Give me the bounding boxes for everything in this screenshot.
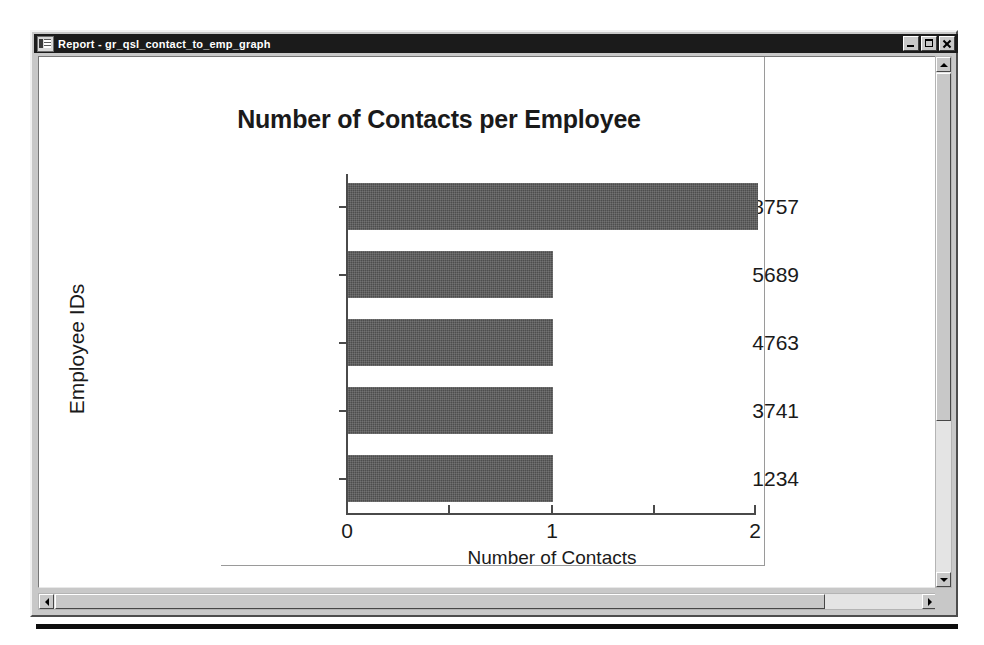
y-axis-label: Employee IDs bbox=[65, 239, 89, 459]
arrow-down-icon bbox=[940, 578, 948, 582]
arrow-left-icon bbox=[45, 598, 49, 606]
window-title: Report - gr_qsl_contact_to_emp_graph bbox=[58, 38, 271, 50]
bar-3741 bbox=[348, 387, 553, 434]
y-tick-label-5689: 5689 bbox=[709, 263, 799, 287]
report-preview-area[interactable]: Number of Contacts per Employee Employee… bbox=[38, 56, 938, 588]
y-axis-line bbox=[346, 174, 348, 515]
scroll-left-button[interactable] bbox=[39, 594, 54, 609]
page-bottom-rule bbox=[36, 624, 958, 629]
y-tick-label-4763: 4763 bbox=[709, 331, 799, 355]
bar-4763 bbox=[348, 319, 553, 366]
x-tick-label-0: 0 bbox=[327, 519, 367, 543]
close-button[interactable] bbox=[939, 36, 955, 51]
y-tick-label-1234: 1234 bbox=[709, 467, 799, 491]
report-window: Report - gr_qsl_contact_to_emp_graph Num… bbox=[30, 30, 958, 617]
chart-title: Number of Contacts per Employee bbox=[159, 105, 719, 134]
x-tick-mark-0 bbox=[346, 505, 348, 514]
maximize-button[interactable] bbox=[921, 36, 937, 51]
arrow-right-icon bbox=[928, 598, 932, 606]
x-tick-mark-1-5 bbox=[653, 505, 655, 514]
bar-chart: Number of Contacts per Employee Employee… bbox=[39, 57, 799, 567]
report-document-icon bbox=[37, 36, 54, 52]
bar-5689 bbox=[348, 251, 553, 298]
x-tick-label-2: 2 bbox=[735, 519, 775, 543]
scroll-up-button[interactable] bbox=[936, 57, 951, 72]
horizontal-scroll-thumb[interactable] bbox=[55, 594, 825, 609]
minimize-button[interactable] bbox=[903, 36, 919, 51]
horizontal-scrollbar[interactable] bbox=[38, 593, 938, 610]
x-tick-mark-1 bbox=[551, 505, 553, 514]
window-titlebar[interactable]: Report - gr_qsl_contact_to_emp_graph bbox=[34, 34, 958, 53]
resize-grip[interactable] bbox=[935, 593, 952, 610]
x-tick-label-1: 1 bbox=[532, 519, 572, 543]
vertical-scrollbar[interactable] bbox=[935, 56, 952, 588]
x-axis-label: Number of Contacts bbox=[346, 547, 758, 569]
scroll-down-button[interactable] bbox=[936, 572, 951, 587]
x-tick-mark-2 bbox=[754, 505, 756, 514]
arrow-up-icon bbox=[940, 63, 948, 67]
bar-1234 bbox=[348, 455, 553, 502]
bar-8757 bbox=[348, 183, 758, 230]
x-tick-mark-0-5 bbox=[448, 505, 450, 514]
window-controls bbox=[903, 36, 956, 51]
page-background: Report - gr_qsl_contact_to_emp_graph Num… bbox=[0, 0, 984, 645]
y-tick-label-3741: 3741 bbox=[709, 399, 799, 423]
vertical-scroll-thumb[interactable] bbox=[936, 73, 951, 421]
